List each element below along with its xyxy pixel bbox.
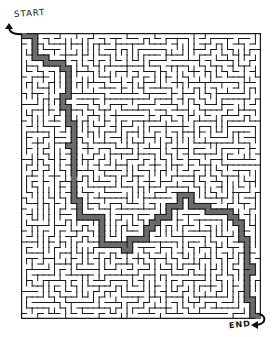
maze-board[interactable] — [21, 33, 261, 319]
start-label: START — [14, 7, 46, 19]
maze-grid[interactable] — [21, 33, 261, 319]
maze-walls — [21, 33, 261, 319]
end-label: END — [229, 319, 252, 330]
end-arrow-icon — [249, 312, 271, 332]
